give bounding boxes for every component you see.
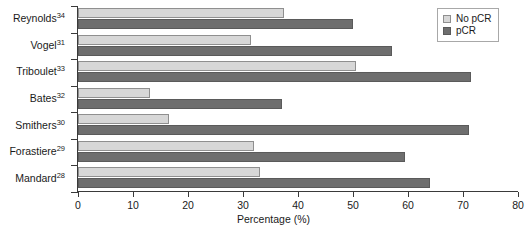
x-axis-tick xyxy=(353,192,354,197)
x-axis-title-text: Percentage (%) xyxy=(237,213,310,225)
x-axis-tick xyxy=(408,192,409,197)
y-axis-label-name: Bates xyxy=(30,92,57,104)
bar-no-pcr-triboulet xyxy=(78,61,356,71)
x-axis-tick xyxy=(518,192,519,197)
x-axis-tick-label: 40 xyxy=(292,199,304,211)
y-axis-label-reference: 30 xyxy=(57,117,65,126)
bar-no-pcr-smithers xyxy=(78,114,169,124)
x-axis-tick xyxy=(463,192,464,197)
legend-label-pcr: pCR xyxy=(456,25,476,37)
bar-group xyxy=(78,165,518,192)
y-axis-label-reference: 34 xyxy=(57,11,65,20)
y-axis-label-forastiere: Forastiere29 xyxy=(9,146,65,157)
y-axis-label-reference: 28 xyxy=(57,170,65,179)
light-gray-swatch-icon xyxy=(443,15,451,23)
bar-pcr-bates xyxy=(78,99,282,109)
y-axis-label-bates: Bates32 xyxy=(30,93,65,104)
dark-gray-swatch-icon xyxy=(443,27,451,35)
y-axis-tick xyxy=(71,86,78,87)
y-axis-label-name: Mandard xyxy=(15,172,56,184)
bar-no-pcr-forastiere xyxy=(78,141,254,151)
x-axis-tick-label: 50 xyxy=(347,199,359,211)
y-axis-label-triboulet: Triboulet33 xyxy=(16,66,65,77)
x-axis-title: Percentage (%) xyxy=(0,213,531,225)
bar-group xyxy=(78,112,518,139)
legend-item-no-pcr: No pCR xyxy=(443,13,492,25)
y-axis-tick xyxy=(71,6,78,7)
bar-no-pcr-vogel xyxy=(78,35,251,45)
grouped-bar-chart: Percentage (%) No pCR pCR Reynolds34Voge… xyxy=(0,0,531,230)
bar-group xyxy=(78,59,518,86)
bar-pcr-forastiere xyxy=(78,152,405,162)
y-axis-tick xyxy=(71,139,78,140)
bar-no-pcr-bates xyxy=(78,88,150,98)
bar-pcr-mandard xyxy=(78,178,430,188)
x-axis-tick-label: 0 xyxy=(75,199,81,211)
y-axis-label-name: Vogel xyxy=(30,39,56,51)
y-axis-tick xyxy=(71,59,78,60)
bar-group xyxy=(78,139,518,166)
bar-pcr-smithers xyxy=(78,125,469,135)
y-axis-label-reynolds: Reynolds34 xyxy=(13,13,65,24)
x-axis-tick-label: 10 xyxy=(127,199,139,211)
x-axis-tick-label: 20 xyxy=(182,199,194,211)
legend-item-pcr: pCR xyxy=(443,25,492,37)
y-axis-tick xyxy=(71,33,78,34)
bar-no-pcr-mandard xyxy=(78,167,260,177)
bar-pcr-vogel xyxy=(78,46,392,56)
y-axis-label-name: Reynolds xyxy=(13,12,57,24)
y-axis-label-vogel: Vogel31 xyxy=(30,40,65,51)
bar-no-pcr-reynolds xyxy=(78,8,284,18)
y-axis-tick xyxy=(71,192,78,193)
x-axis-tick-label: 30 xyxy=(237,199,249,211)
bar-pcr-reynolds xyxy=(78,19,353,29)
bar-pcr-triboulet xyxy=(78,72,471,82)
legend-label-no-pcr: No pCR xyxy=(456,13,492,25)
y-axis-tick xyxy=(71,165,78,166)
bar-group xyxy=(78,86,518,113)
x-axis-tick-label: 60 xyxy=(402,199,414,211)
y-axis-label-name: Triboulet xyxy=(16,65,56,77)
x-axis-tick xyxy=(243,192,244,197)
x-axis-tick xyxy=(298,192,299,197)
y-axis-label-reference: 33 xyxy=(57,64,65,73)
y-axis-tick xyxy=(71,112,78,113)
y-axis-label-name: Smithers xyxy=(15,119,56,131)
x-axis-tick xyxy=(188,192,189,197)
chart-legend: No pCR pCR xyxy=(437,8,499,42)
y-axis-label-name: Forastiere xyxy=(9,145,56,157)
x-axis-tick-label: 80 xyxy=(512,199,524,211)
y-axis-label-reference: 32 xyxy=(57,91,65,100)
x-axis-tick xyxy=(78,192,79,197)
y-axis-label-mandard: Mandard28 xyxy=(15,173,65,184)
y-axis-label-reference: 29 xyxy=(57,144,65,153)
x-axis-tick xyxy=(133,192,134,197)
y-axis-label-smithers: Smithers30 xyxy=(15,120,65,131)
y-axis-label-reference: 31 xyxy=(57,37,65,46)
x-axis-tick-label: 70 xyxy=(457,199,469,211)
